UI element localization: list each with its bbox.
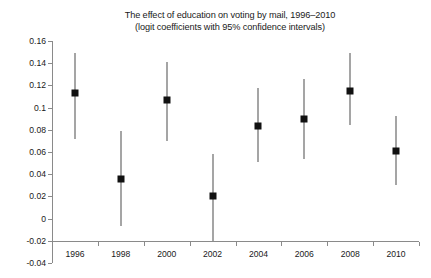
y-tick-label: 0.02 xyxy=(29,191,46,201)
y-tick-label: 0.12 xyxy=(29,80,46,90)
y-tick-label: 0.16 xyxy=(29,36,46,46)
chart-title: The effect of education on voting by mai… xyxy=(55,9,405,33)
chart-container: The effect of education on voting by mai… xyxy=(0,0,431,278)
data-point-marker xyxy=(393,147,400,154)
data-point-marker xyxy=(301,115,308,122)
y-tick-label: 0.1 xyxy=(34,103,46,113)
chart-subtitle-line: (logit coefficients with 95% confidence … xyxy=(55,21,405,33)
data-point-marker xyxy=(163,96,170,103)
data-point-marker xyxy=(209,193,216,200)
data-point-marker xyxy=(71,90,78,97)
y-tick-label: -0.04 xyxy=(26,258,46,268)
y-tick-label: 0.08 xyxy=(29,125,46,135)
y-tick-label: 0.04 xyxy=(29,169,46,179)
y-tick-label: 0.14 xyxy=(29,58,46,68)
data-point-marker xyxy=(347,87,354,94)
x-tick-mark xyxy=(419,242,420,246)
plot-area xyxy=(52,41,419,263)
y-tick-label: -0.02 xyxy=(26,236,46,246)
chart-title-line: The effect of education on voting by mai… xyxy=(55,9,405,21)
data-point-marker xyxy=(117,175,124,182)
y-tick-label: 0 xyxy=(41,214,46,224)
y-tick-label: 0.06 xyxy=(29,147,46,157)
data-point-marker xyxy=(255,123,262,130)
